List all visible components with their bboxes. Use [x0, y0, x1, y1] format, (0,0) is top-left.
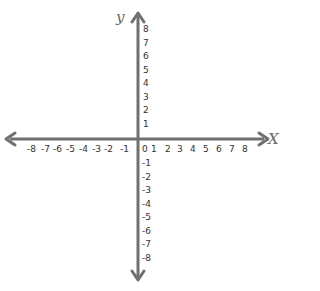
- x-tick-label: -1: [120, 144, 129, 154]
- x-tick-label: 1: [151, 144, 157, 154]
- y-tick-label: 8: [143, 24, 149, 34]
- x-tick-label: -3: [92, 144, 101, 154]
- y-tick-label: 3: [143, 92, 149, 102]
- y-tick-label: 4: [143, 78, 149, 88]
- x-axis-name: X: [268, 130, 279, 148]
- x-tick-label: -5: [66, 144, 75, 154]
- y-tick-label: -4: [142, 199, 151, 209]
- y-tick-label: -8: [142, 253, 151, 263]
- y-axis-name: y: [116, 8, 124, 26]
- y-tick-label: 1: [143, 119, 149, 129]
- x-tick-label: -8: [27, 144, 36, 154]
- y-tick-label: -1: [142, 158, 151, 168]
- x-tick-label: 0: [142, 144, 148, 154]
- x-tick-label: -6: [53, 144, 62, 154]
- y-tick-label: 2: [143, 105, 149, 115]
- y-tick-label: -5: [142, 212, 151, 222]
- y-tick-label: -7: [142, 239, 151, 249]
- y-tick-label: -2: [142, 172, 151, 182]
- x-tick-label: 8: [242, 144, 248, 154]
- x-tick-label: 4: [190, 144, 196, 154]
- x-tick-label: -4: [79, 144, 88, 154]
- x-tick-label: 3: [177, 144, 183, 154]
- y-tick-label: 7: [143, 38, 149, 48]
- x-tick-label: 5: [203, 144, 209, 154]
- y-tick-label: -3: [142, 185, 151, 195]
- y-tick-label: 5: [143, 65, 149, 75]
- x-tick-label: 6: [216, 144, 222, 154]
- y-tick-label: -6: [142, 226, 151, 236]
- x-tick-label: 2: [165, 144, 171, 154]
- y-tick-label: 6: [143, 51, 149, 61]
- x-tick-label: -2: [104, 144, 113, 154]
- x-tick-label: 7: [229, 144, 235, 154]
- x-tick-label: -7: [41, 144, 50, 154]
